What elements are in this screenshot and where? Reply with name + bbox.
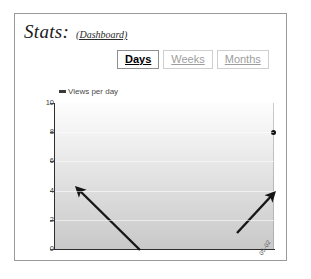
gridline bbox=[55, 161, 274, 162]
tab-days[interactable]: Days bbox=[117, 50, 159, 69]
legend-marker-icon bbox=[59, 90, 66, 93]
y-tick-label: 10 bbox=[24, 99, 54, 107]
tab-months[interactable]: Months bbox=[217, 50, 269, 69]
legend-label: Views per day bbox=[68, 87, 118, 96]
plot-area bbox=[55, 103, 274, 249]
page-title: Stats: bbox=[24, 21, 69, 43]
y-tick-label: 2 bbox=[24, 216, 54, 224]
y-axis bbox=[54, 103, 55, 250]
tab-weeks[interactable]: Weeks bbox=[163, 50, 212, 69]
page-header: Stats: (Dashboard) bbox=[24, 21, 127, 43]
y-tick-label-wrap: 10 bbox=[15, 99, 54, 107]
point-vertical-guide bbox=[273, 103, 274, 249]
gridline bbox=[55, 191, 274, 192]
y-tick-label: 6 bbox=[24, 157, 54, 165]
x-axis bbox=[54, 249, 275, 250]
y-tick-label-wrap: 8 bbox=[15, 128, 54, 136]
y-tick-label-wrap: 6 bbox=[15, 157, 54, 165]
y-tick-label: 4 bbox=[24, 187, 54, 195]
views-chart: Views per day 05-02 1086420 bbox=[15, 70, 286, 260]
y-tick-label-wrap: 4 bbox=[15, 187, 54, 195]
y-tick-label-wrap: 2 bbox=[15, 216, 54, 224]
stats-panel: Stats: (Dashboard) DaysWeeksMonths Views… bbox=[14, 13, 287, 261]
y-tick-label: 8 bbox=[24, 128, 54, 136]
chart-legend: Views per day bbox=[59, 87, 118, 96]
y-tick-label-wrap: 0 bbox=[15, 245, 54, 253]
gridline bbox=[55, 220, 274, 221]
dashboard-link[interactable]: (Dashboard) bbox=[76, 29, 127, 40]
gridline bbox=[55, 132, 274, 133]
period-tabs: DaysWeeksMonths bbox=[117, 50, 269, 69]
y-tick-label: 0 bbox=[24, 245, 54, 253]
